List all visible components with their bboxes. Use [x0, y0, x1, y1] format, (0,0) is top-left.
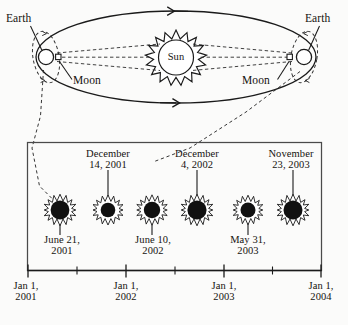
event-below-line2: 2002	[135, 245, 171, 256]
event-below-label-1: June 21, 2001	[44, 234, 80, 257]
event-above-line1: December	[175, 148, 219, 159]
axis-label-2: Jan 1, 2002	[113, 280, 138, 303]
earth-right-label: Earth	[305, 12, 330, 24]
eclipse-marker-4	[181, 170, 213, 226]
earth-left-label: Earth	[6, 12, 31, 24]
event-below-label-2: June 10, 2002	[135, 234, 171, 257]
eclipse-marker-5	[233, 195, 263, 235]
event-below-line2: 2003	[230, 245, 266, 256]
axis-label-3: Jan 1, 2003	[211, 280, 236, 303]
moon-left-leader	[60, 62, 73, 80]
eclipse-marker-2	[93, 170, 123, 225]
axis-label-4: Jan 1, 2004	[308, 280, 333, 303]
axis-label-line1: Jan 1,	[211, 280, 236, 291]
event-below-line2: 2001	[44, 245, 80, 256]
event-above-line1: December	[86, 148, 130, 159]
figure-root: Earth Earth Moon Moon Sun December 14, 2…	[0, 0, 348, 325]
event-above-line2: 14, 2001	[86, 159, 130, 170]
eclipse-marker-1	[44, 194, 76, 235]
axis-label-line2: 2001	[13, 291, 38, 302]
event-below-line1: June 10,	[135, 234, 171, 245]
moon-body-right	[287, 54, 292, 59]
eclipse-marker-3	[137, 195, 167, 235]
axis-label-1: Jan 1, 2001	[13, 280, 38, 303]
event-above-label-1: December 14, 2001	[86, 148, 130, 171]
moon-left-label: Moon	[73, 74, 101, 86]
event-above-line1: November	[268, 148, 313, 159]
axis-label-line2: 2002	[113, 291, 138, 302]
event-below-line1: June 21,	[44, 234, 80, 245]
axis-label-line2: 2003	[211, 291, 236, 302]
earth-body-left	[38, 49, 53, 64]
axis-label-line1: Jan 1,	[308, 280, 333, 291]
sun-label: Sun	[168, 51, 185, 62]
earth-body-right	[296, 49, 311, 64]
eclipse-marker-6	[277, 170, 309, 226]
earth-left-leader	[31, 26, 43, 51]
event-above-label-2: December 4, 2002	[175, 148, 219, 171]
moon-right-leader	[278, 62, 290, 80]
axis-label-line2: 2004	[308, 291, 333, 302]
timeline-axis	[28, 265, 322, 278]
event-above-line2: 23, 2003	[268, 159, 313, 170]
axis-label-line1: Jan 1,	[13, 280, 38, 291]
event-above-line2: 4, 2002	[175, 159, 219, 170]
event-below-line1: May 31,	[230, 234, 266, 245]
event-below-label-3: May 31, 2003	[230, 234, 266, 257]
callout-line-left	[32, 70, 57, 203]
axis-label-line1: Jan 1,	[113, 280, 138, 291]
moon-right-label: Moon	[242, 74, 270, 86]
moon-body-left	[56, 54, 61, 59]
event-above-label-3: November 23, 2003	[268, 148, 313, 171]
